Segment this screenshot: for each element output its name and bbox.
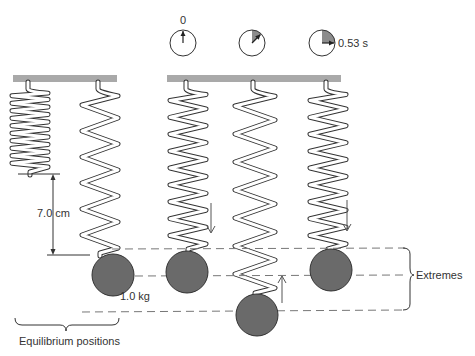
- clock-icon: [239, 30, 265, 56]
- arrow-down-icon: [207, 203, 215, 233]
- arrow-down-icon: [343, 200, 351, 231]
- mass-2: [166, 251, 208, 293]
- mass-4: [310, 249, 352, 291]
- clock-label-end: 0.53 s: [338, 37, 368, 49]
- extremes-label: Extremes: [416, 269, 463, 281]
- upper-extreme-line: [112, 248, 405, 249]
- equilibrium-brace: [15, 318, 119, 331]
- clock-icon: [170, 30, 196, 56]
- mass-label: 1.0 kg: [120, 290, 150, 302]
- clock-icon: [309, 30, 335, 56]
- spring-equilibrium: [82, 82, 118, 256]
- equilibrium-label: Equilibrium positions: [19, 335, 120, 347]
- diagram: 7.0 cm 1.0 kg Extremes Equilibrium posit…: [0, 0, 475, 356]
- spring-upper-extreme-2: [310, 82, 346, 252]
- displacement-label: 7.0 cm: [37, 207, 70, 219]
- arrow-up-icon: [278, 276, 286, 303]
- spring-upper-extreme-1: [170, 82, 206, 252]
- mass-3: [236, 294, 278, 336]
- spring-unloaded: [12, 82, 48, 175]
- extremes-brace: [403, 248, 414, 310]
- spring-lower-extreme: [235, 82, 275, 296]
- clock-label-start: 0: [180, 14, 186, 26]
